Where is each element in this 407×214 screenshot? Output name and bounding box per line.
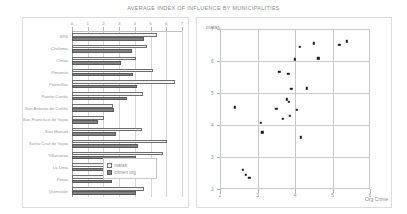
- bar-x-tickmark: [88, 27, 89, 31]
- scatter-point: [275, 108, 277, 110]
- bar-chart-legend: maras crimen org: [103, 158, 157, 179]
- bar-crimen-org: [72, 61, 121, 65]
- scatter-chart: 23456234567 maras Org Crime: [196, 17, 392, 208]
- scatter-y-tick-label: 6: [211, 59, 214, 64]
- bar-category-label: Pimienta: [51, 70, 68, 75]
- bar-category-label: San Manuel: [45, 129, 68, 134]
- bar-x-tick-label: 2: [102, 21, 104, 26]
- bar-chart: SPSCholomaOmoaPimientaPotrerillosPuerto …: [22, 17, 189, 208]
- scatter-gridline-horizontal: [220, 61, 370, 62]
- bar-category-label: Puerto Cortés: [41, 94, 68, 99]
- scatter-point: [287, 73, 289, 75]
- scatter-point: [313, 42, 315, 44]
- scatter-point: [287, 101, 289, 103]
- scatter-y-tick-label: 4: [211, 123, 214, 128]
- scatter-point: [298, 45, 300, 47]
- scatter-point: [299, 136, 301, 138]
- figure-title: AVERAGE INDEX OF INFLUENCE BY MUNICIPALI…: [0, 5, 407, 11]
- bar-crimen-org: [72, 37, 144, 41]
- scatter-point: [282, 117, 284, 119]
- bar-category-label: Choloma: [51, 46, 68, 51]
- bar-maras: [72, 187, 144, 191]
- bar-crimen-org: [72, 144, 138, 148]
- scatter-y-tick-label: 5: [211, 91, 214, 96]
- scatter-y-tickmark: [217, 125, 221, 126]
- scatter-point: [248, 177, 250, 179]
- bar-crimen-org: [72, 108, 114, 112]
- bar-x-tickmark: [135, 27, 136, 31]
- bar-x-tick-label: 4: [134, 21, 136, 26]
- bar-crimen-org: [72, 49, 132, 53]
- bar-gridline: [182, 31, 183, 197]
- bar-x-tickmark: [166, 27, 167, 31]
- bar-x-tick-label: 1: [86, 21, 88, 26]
- scatter-point: [338, 44, 340, 46]
- scatter-x-axis-label: Org Crime: [365, 196, 388, 202]
- scatter-point: [278, 71, 280, 73]
- scatter-x-tickmark: [295, 189, 296, 193]
- scatter-y-tick-label: 2: [211, 187, 214, 192]
- scatter-point: [296, 109, 298, 111]
- scatter-plot-area: 23456234567: [220, 29, 370, 189]
- scatter-point: [294, 58, 296, 60]
- scatter-y-axis-label: maras: [206, 24, 220, 30]
- scatter-point: [241, 169, 243, 171]
- scatter-x-tickmark: [220, 189, 221, 193]
- bar-x-tickmark: [182, 27, 183, 31]
- scatter-y-tickmark: [217, 93, 221, 94]
- bar-category-label: San Antonio de Cortés: [25, 106, 68, 111]
- scatter-gridline-horizontal: [220, 125, 370, 126]
- scatter-x-tick-label: 2: [219, 193, 222, 198]
- scatter-point: [290, 88, 292, 90]
- bar-category-label: Quimistán: [49, 189, 68, 194]
- legend-swatch-crimen-org: [107, 170, 112, 175]
- bar-maras: [72, 33, 157, 37]
- scatter-x-tickmark: [333, 189, 334, 193]
- legend-swatch-maras: [107, 163, 112, 168]
- bar-category-label: Potrerillos: [49, 82, 68, 87]
- bar-crimen-org: [72, 85, 137, 89]
- legend-label-maras: maras: [114, 163, 127, 168]
- scatter-x-tick-label: 4: [294, 193, 297, 198]
- bar-maras: [72, 92, 143, 96]
- bar-category-label: San Francisco de Yojoa: [23, 117, 68, 122]
- scatter-point: [234, 106, 236, 108]
- scatter-x-tickmark: [258, 189, 259, 193]
- bar-maras: [72, 128, 142, 132]
- bar-category-label: Villanueva: [48, 153, 68, 158]
- scatter-y-tickmark: [217, 157, 221, 158]
- bar-crimen-org: [72, 191, 136, 195]
- scatter-x-tick-label: 5: [331, 193, 334, 198]
- scatter-y-tickmark: [217, 61, 221, 62]
- bar-category-axis: SPSCholomaOmoaPimientaPotrerillosPuerto …: [22, 17, 70, 208]
- scatter-y-tickmark: [217, 189, 221, 190]
- legend-item-maras: maras: [107, 162, 153, 170]
- scatter-point: [244, 173, 246, 175]
- bar-x-tick-label: 6: [165, 21, 167, 26]
- bar-crimen-org: [72, 73, 133, 77]
- scatter-gridline-horizontal: [220, 93, 370, 94]
- bar-crimen-org: [72, 120, 98, 124]
- bar-category-label: Petoa: [57, 177, 68, 182]
- scatter-gridline-vertical: [333, 29, 334, 189]
- bar-category-label: La Lima: [53, 165, 68, 170]
- bar-x-tick-label: 5: [149, 21, 151, 26]
- bar-x-tickmark: [119, 27, 120, 31]
- bar-maras: [72, 152, 163, 156]
- scatter-point: [259, 122, 261, 124]
- scatter-point: [261, 131, 263, 133]
- scatter-y-tick-label: 3: [211, 155, 214, 160]
- scatter-gridline-horizontal: [220, 157, 370, 158]
- bar-maras: [72, 116, 104, 120]
- bar-maras: [72, 104, 113, 108]
- scatter-point: [317, 57, 319, 59]
- bar-x-tick-label: 0: [71, 21, 73, 26]
- bar-x-tickmark: [72, 27, 73, 31]
- scatter-point: [306, 87, 308, 89]
- bar-x-tick-label: 7: [181, 21, 183, 26]
- bar-maras: [72, 57, 136, 61]
- scatter-x-tick-label: 3: [256, 193, 259, 198]
- bar-maras: [72, 45, 147, 49]
- bar-category-label: Omoa: [56, 58, 68, 63]
- chart-figure: AVERAGE INDEX OF INFLUENCE BY MUNICIPALI…: [0, 0, 407, 214]
